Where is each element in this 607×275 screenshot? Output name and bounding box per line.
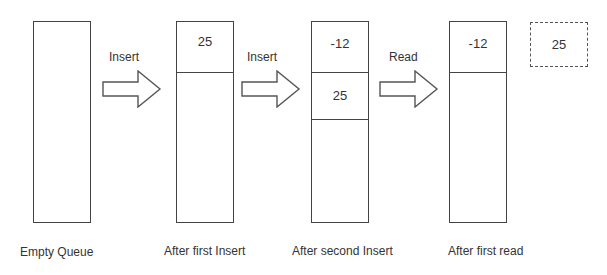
- queue-cell: -12: [450, 22, 506, 73]
- operation-label-read: Read: [389, 50, 418, 64]
- caption-empty-queue: Empty Queue: [20, 245, 93, 259]
- queue-after-first-insert: 25: [176, 21, 234, 223]
- caption-after-first-insert: After first Insert: [164, 244, 245, 258]
- queue-after-first-read: -12: [449, 21, 507, 223]
- right-arrow-icon: [241, 70, 301, 108]
- caption-after-first-read: After first read: [448, 244, 523, 258]
- queue-empty: [33, 21, 91, 223]
- queue-cell: 25: [312, 72, 368, 120]
- right-arrow-icon: [102, 70, 162, 108]
- read-output-value: 25: [530, 22, 588, 67]
- queue-after-second-insert: -12 25: [311, 21, 369, 223]
- queue-cell: 25: [177, 22, 233, 73]
- right-arrow-icon: [379, 70, 439, 108]
- queue-cell: -12: [312, 22, 368, 73]
- caption-after-second-insert: After second Insert: [292, 244, 393, 258]
- operation-label-insert-1: Insert: [109, 50, 139, 64]
- operation-label-insert-2: Insert: [247, 50, 277, 64]
